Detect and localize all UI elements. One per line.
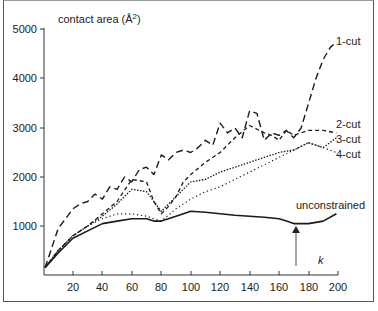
series-label-1-cut: 1-cut (336, 35, 360, 47)
x-tick-label: 200 (329, 281, 347, 293)
series-line-2-cut (45, 126, 336, 268)
y-axis-label: contact area (Å2) (58, 12, 141, 25)
x-tick-label: 20 (67, 281, 79, 293)
series-line-unconstrained (45, 211, 336, 267)
x-tick-label: 60 (126, 281, 138, 293)
x-tick-label: 40 (96, 281, 108, 293)
x-tick-label: 140 (241, 281, 259, 293)
series-line-3-cut (45, 138, 336, 268)
y-tick-label: 5000 (13, 23, 37, 35)
series-label-2-cut: 2-cut (336, 118, 360, 130)
line-chart: 5000 4000 3000 2000 1000 20 40 60 80 100… (0, 0, 378, 311)
series-label-unconstrained: unconstrained (296, 199, 365, 211)
y-ticks (40, 29, 44, 226)
x-ticks (73, 271, 338, 275)
series-label-3-cut: 3-cut (336, 133, 360, 145)
y-tick-label: 3000 (13, 122, 37, 134)
y-tick-label: 1000 (13, 220, 37, 232)
arrow-head-icon (292, 226, 300, 233)
x-tick-label: 160 (270, 281, 288, 293)
y-tick-label: 4000 (13, 72, 37, 84)
x-tick-label: 100 (182, 281, 200, 293)
y-tick-label: 2000 (13, 171, 37, 183)
series-line-1-cut (45, 42, 336, 267)
series-line-4-cut (45, 143, 336, 268)
series-lines (45, 42, 336, 267)
series-label-4-cut: 4-cut (336, 148, 360, 160)
k-label: k (318, 254, 324, 266)
x-tick-label: 180 (300, 281, 318, 293)
x-tick-label: 120 (211, 281, 229, 293)
x-tick-label: 80 (155, 281, 167, 293)
